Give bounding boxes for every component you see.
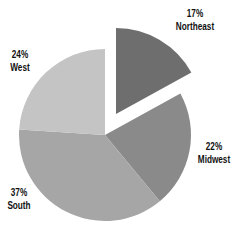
label-west: 24% West: [0, 48, 45, 74]
label-midwest-name: Midwest: [189, 153, 236, 166]
label-midwest-pct: 22%: [189, 140, 236, 153]
label-midwest: 22% Midwest: [189, 140, 236, 166]
label-northeast-pct: 17%: [170, 7, 219, 20]
label-northeast: 17% Northeast: [170, 7, 219, 33]
label-west-pct: 24%: [0, 48, 45, 61]
label-west-name: West: [0, 61, 45, 74]
label-south-pct: 37%: [0, 186, 44, 199]
label-south: 37% South: [0, 186, 44, 212]
label-northeast-name: Northeast: [170, 20, 219, 33]
label-south-name: South: [0, 199, 44, 212]
